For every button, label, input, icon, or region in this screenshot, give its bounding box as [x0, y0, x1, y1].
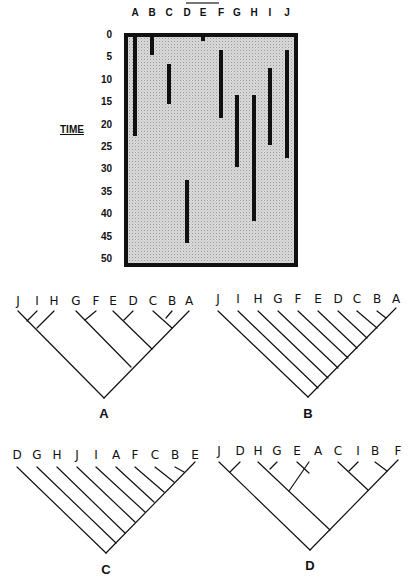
- cladogram-d-tip-a: A: [313, 444, 323, 458]
- cladogram-a-tip-h: H: [49, 294, 59, 308]
- cladogram-c-branches: [17, 462, 195, 553]
- cladogram-d-tip-h: H: [253, 444, 263, 458]
- cladogram-b-label: B: [302, 406, 314, 421]
- cladogram-b-tip-h: H: [253, 292, 263, 306]
- cladogram-a-label: A: [98, 406, 110, 421]
- cladogram-c-tip-a: A: [111, 448, 121, 462]
- cladogram-d-branches: [219, 460, 398, 550]
- cladogram-d-tip-b: B: [370, 444, 380, 458]
- cladogram-a-tip-f: F: [91, 294, 101, 308]
- cladogram-d-tip-f: F: [393, 444, 403, 458]
- cladogram-a-tip-j: J: [13, 294, 23, 308]
- cladogram-a-tip-b: B: [167, 294, 177, 308]
- cladogram-b-tip-i: I: [233, 292, 243, 306]
- cladogram-c-tip-g: G: [32, 448, 42, 462]
- cladogram-b-tip-a: A: [391, 292, 401, 306]
- cladogram-d-label: D: [304, 558, 316, 573]
- cladogram-d-tip-g: G: [272, 444, 282, 458]
- cladogram-d-tip-i: I: [353, 444, 363, 458]
- cladogram-b-tip-j: J: [213, 292, 223, 306]
- cladogram-a-tip-a: A: [184, 294, 194, 308]
- cladogram-d-tip-e: E: [292, 444, 302, 458]
- cladogram-b-tip-d: D: [333, 292, 343, 306]
- cladogram-a-tip-i: I: [32, 294, 42, 308]
- cladogram-a-tip-e: E: [108, 294, 118, 308]
- cladogram-b-tip-f: F: [293, 292, 303, 306]
- cladogram-b-tip-g: G: [273, 292, 283, 306]
- cladogram-c-tip-h: H: [52, 448, 62, 462]
- cladogram-c-tip-j: J: [72, 448, 82, 462]
- cladogram-c-tip-b: B: [170, 448, 180, 462]
- cladogram-c-tip-e: E: [190, 448, 200, 462]
- cladogram-d-tip-j: J: [214, 444, 224, 458]
- cladogram-c-tip-c: C: [150, 448, 160, 462]
- cladogram-d-tip-d: D: [235, 444, 245, 458]
- cladogram-a-tip-c: C: [148, 294, 158, 308]
- cladogram-b-tip-b: B: [372, 292, 382, 306]
- cladogram-d-tip-c: C: [333, 444, 343, 458]
- cladogram-b-branches: [218, 308, 396, 397]
- cladogram-c-tip-i: I: [91, 448, 101, 462]
- cladogram-b-tip-c: C: [352, 292, 362, 306]
- cladogram-a-tip-d: D: [128, 294, 138, 308]
- cladogram-a-tip-g: G: [71, 294, 81, 308]
- cladogram-b-tip-e: E: [313, 292, 323, 306]
- cladogram-c-tip-f: F: [130, 448, 140, 462]
- cladogram-c-label: C: [100, 562, 112, 577]
- cladogram-c-tip-d: D: [12, 448, 22, 462]
- cladogram-a-branches: [18, 311, 189, 398]
